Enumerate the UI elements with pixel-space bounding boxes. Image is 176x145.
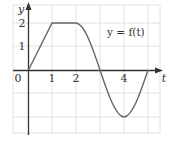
y-tick-2: 2 xyxy=(19,17,26,30)
x-tick-1: 1 xyxy=(49,72,56,85)
x-axis-label: t xyxy=(162,72,167,85)
chart: 0 1 2 4 1 2 t y y = f(t) xyxy=(0,0,176,145)
y-axis-arrow-icon xyxy=(26,2,32,10)
x-tick-4: 4 xyxy=(121,72,128,85)
y-tick-1: 1 xyxy=(19,40,26,53)
equation-annotation: y = f(t) xyxy=(106,26,145,38)
y-axis-label: y xyxy=(17,3,25,16)
grid xyxy=(13,5,160,133)
origin-label: 0 xyxy=(15,72,22,85)
x-tick-2: 2 xyxy=(73,72,80,85)
